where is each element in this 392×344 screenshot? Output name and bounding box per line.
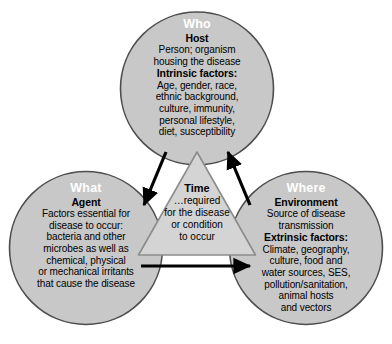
who-factors-heading: Intrinsic factors: (118, 67, 276, 79)
who-node-text: Who Host Person; organism housing the di… (118, 17, 276, 138)
who-zone-label: Who (118, 17, 276, 32)
time-line-3: or condition (142, 219, 252, 231)
who-factor-line-3: culture, immunity, (118, 103, 276, 115)
epidemiologic-triangle-diagram: Who Host Person; organism housing the di… (0, 0, 392, 344)
what-line-4: microbes as well as (6, 243, 166, 255)
time-line-4: to occur (142, 231, 252, 243)
who-factor-line-2: ethnic background, (118, 91, 276, 103)
where-factor-line-2: culture, food and (226, 255, 386, 267)
time-line-2: for the disease (142, 207, 252, 219)
where-factor-line-4: pollution/sanitation, (226, 279, 386, 291)
who-factor-line-1: Age, gender, race, (118, 80, 276, 92)
what-line-5: chemical, physical (6, 255, 166, 267)
where-factor-line-1: Climate, geography, (226, 244, 386, 256)
time-node-text: Time …required for the disease or condit… (142, 182, 252, 243)
who-line-2: housing the disease (118, 56, 276, 68)
time-line-1: …required (142, 195, 252, 207)
where-factor-line-6: and vectors (226, 302, 386, 314)
who-line-1: Person; organism (118, 44, 276, 56)
who-factor-line-5: diet, susceptibility (118, 126, 276, 138)
time-heading: Time (142, 182, 252, 195)
where-factor-line-5: animal hosts (226, 290, 386, 302)
who-heading: Host (118, 32, 276, 44)
who-factor-line-4: personal lifestyle, (118, 115, 276, 127)
what-line-6: or mechanical irritants (6, 266, 166, 278)
where-factor-line-3: water sources, SES, (226, 267, 386, 279)
what-line-7: that cause the disease (6, 278, 166, 290)
